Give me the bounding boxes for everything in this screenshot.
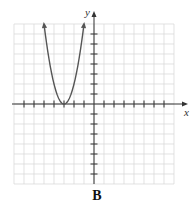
- figure-caption: B: [0, 188, 194, 204]
- x-axis-label: x: [183, 106, 189, 118]
- axes: [12, 11, 188, 184]
- y-axis-label: y: [84, 6, 90, 18]
- coordinate-plane: x y: [0, 0, 194, 206]
